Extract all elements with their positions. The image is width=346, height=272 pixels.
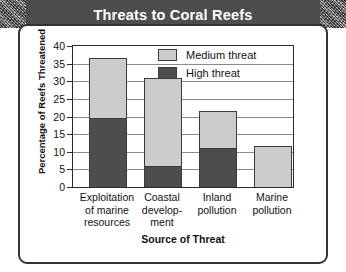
- bar-segment-medium-threat[interactable]: [254, 146, 292, 187]
- y-axis-tick: [67, 81, 73, 82]
- legend-item-medium-threat: Medium threat: [158, 46, 258, 63]
- bar-group[interactable]: [89, 58, 127, 187]
- x-axis-category-label-line: pollution: [236, 204, 308, 217]
- y-axis-tick-label: 20: [43, 111, 65, 123]
- bar-group[interactable]: [254, 146, 292, 187]
- bar-segment-high-threat[interactable]: [144, 166, 182, 187]
- legend-item-high-threat: High threat: [158, 64, 258, 81]
- y-axis-tick: [67, 99, 73, 100]
- y-axis-tick: [67, 134, 73, 135]
- y-axis-tick: [67, 187, 73, 188]
- legend-label-high-threat: High threat: [184, 67, 242, 79]
- bar-segment-high-threat[interactable]: [199, 148, 237, 187]
- bar-segment-medium-threat[interactable]: [144, 78, 182, 166]
- y-axis-tick-label: 0: [43, 181, 65, 193]
- chart-body: Percentage of Reefs Threatened 403530252…: [18, 24, 328, 264]
- y-axis-tick-label: 10: [43, 146, 65, 158]
- bar-segment-medium-threat[interactable]: [199, 111, 237, 148]
- y-axis-tick: [67, 64, 73, 65]
- y-axis-tick-label: 5: [43, 163, 65, 175]
- x-axis-category-label-line: ment: [126, 216, 198, 229]
- y-axis-tick-label: 40: [43, 40, 65, 52]
- bar-segment-high-threat[interactable]: [89, 118, 127, 187]
- y-axis-tick: [67, 117, 73, 118]
- y-axis-tick: [67, 152, 73, 153]
- y-axis-tick-label: 25: [43, 93, 65, 105]
- y-axis-tick-label: 30: [43, 75, 65, 87]
- legend-label-medium-threat: Medium threat: [184, 49, 258, 61]
- x-axis-title: Source of Threat: [72, 233, 294, 245]
- y-axis-tick: [67, 46, 73, 47]
- chart-legend: Medium threat High threat: [158, 46, 258, 82]
- bar-group[interactable]: [144, 78, 182, 187]
- x-axis-category-label-line: Marine: [236, 191, 308, 204]
- y-axis-tick: [67, 169, 73, 170]
- x-axis-category-label: Marinepollution: [236, 191, 308, 216]
- legend-swatch-medium-threat-icon: [158, 49, 177, 61]
- legend-swatch-high-threat-icon: [158, 67, 177, 79]
- y-axis-tick-label: 15: [43, 128, 65, 140]
- bar-segment-medium-threat[interactable]: [89, 58, 127, 118]
- bar-group[interactable]: [199, 111, 237, 187]
- y-axis-tick-label: 35: [43, 58, 65, 70]
